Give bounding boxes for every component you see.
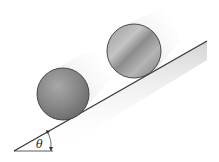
disk [107, 24, 161, 78]
theta-label: θ [36, 138, 43, 151]
sphere [37, 68, 89, 120]
angle-arrowhead-bottom [49, 147, 53, 151]
incline-diagram: θ [0, 0, 219, 162]
